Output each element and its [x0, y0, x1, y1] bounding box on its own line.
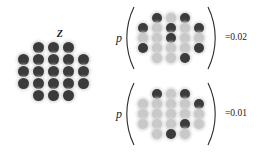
figure-canvas: Z p =0.02 p: [0, 0, 261, 152]
z-lattice-node-dark: [63, 90, 74, 101]
matrix-top-row: [150, 13, 192, 23]
matrix-bottom-node-light: [152, 119, 162, 129]
z-lattice-row: [31, 42, 76, 53]
matrix-top-row: [136, 43, 206, 53]
z-lattice-node-dark: [48, 66, 59, 77]
z-lattice-node-dark: [33, 66, 44, 77]
matrix-bottom-row: [150, 129, 192, 139]
z-lattice-node-dark: [63, 54, 74, 65]
probability-expression-bottom: p =0.01: [116, 78, 247, 150]
z-lattice-node-dark: [33, 54, 44, 65]
matrix-top-node-dark: [166, 23, 176, 33]
matrix-bottom-node-light: [166, 119, 176, 129]
z-lattice-node-dark: [33, 42, 44, 53]
z-lattice-node-dark: [18, 66, 29, 77]
matrix-top-node-light: [180, 23, 190, 33]
z-lattice-node-dark: [63, 42, 74, 53]
z-lattice-row: [16, 54, 91, 65]
matrix-top-node-light: [166, 13, 176, 23]
z-lattice-node-dark: [18, 54, 29, 65]
matrix-bottom-node-dark: [166, 129, 176, 139]
matrix-top-node-dark: [194, 43, 204, 53]
matrix-bottom-node-light: [180, 109, 190, 119]
z-lattice-node-dark: [18, 78, 29, 89]
z-lattice: [16, 42, 91, 102]
matrix-top: [136, 13, 206, 63]
z-lattice-row: [16, 66, 91, 77]
matrix-top-node-dark: [180, 13, 190, 23]
matrix-bottom-node-light: [194, 119, 204, 129]
matrix-bottom-row: [136, 99, 206, 109]
z-lattice-node-dark: [33, 78, 44, 89]
matrix-top-node-dark: [166, 33, 176, 43]
probability-value-bottom: =0.01: [225, 109, 247, 119]
matrix-bottom-node-light: [138, 109, 148, 119]
p-symbol-top: p: [116, 32, 122, 44]
close-paren-bottom: [207, 82, 216, 146]
z-lattice-node-dark: [78, 66, 89, 77]
matrix-bottom-node-dark: [180, 89, 190, 99]
matrix-bottom-row: [136, 119, 206, 129]
matrix-bottom-node-light: [152, 109, 162, 119]
matrix-top-node-dark: [180, 53, 190, 63]
probability-expression-top: p =0.02: [116, 2, 247, 74]
z-lattice-node-dark: [78, 78, 89, 89]
z-lattice-node-dark: [78, 54, 89, 65]
matrix-top-node-light: [166, 53, 176, 63]
z-lattice-row: [31, 90, 76, 101]
matrix-bottom-node-light: [166, 99, 176, 109]
matrix-top-row: [136, 33, 206, 43]
z-panel: Z: [12, 28, 108, 120]
matrix-top-row: [136, 23, 206, 33]
matrix-bottom-node-light: [152, 129, 162, 139]
matrix-bottom-lattice: [136, 89, 206, 139]
matrix-bottom-node-light: [138, 99, 148, 109]
matrix-bottom-node-dark: [180, 119, 190, 129]
p-symbol-bottom: p: [116, 108, 122, 120]
matrix-bottom-node-dark: [194, 99, 204, 109]
matrix-top-node-light: [152, 53, 162, 63]
matrix-top-node-light: [166, 43, 176, 53]
matrix-top-node-dark: [138, 43, 148, 53]
z-lattice-node-dark: [48, 78, 59, 89]
matrix-bottom-node-light: [152, 99, 162, 109]
matrix-bottom-node-dark: [152, 89, 162, 99]
z-lattice-node-dark: [63, 66, 74, 77]
matrix-bottom-row: [150, 89, 192, 99]
matrix-bottom: [136, 89, 206, 139]
matrix-top-node-light: [152, 23, 162, 33]
z-lattice-node-dark: [48, 90, 59, 101]
matrix-top-node-light: [180, 33, 190, 43]
matrix-bottom-node-light: [180, 99, 190, 109]
matrix-top-node-light: [138, 33, 148, 43]
close-paren-top: [207, 6, 216, 70]
z-lattice-row: [16, 78, 91, 89]
probability-value-top: =0.02: [225, 33, 247, 43]
matrix-top-node-dark: [138, 23, 148, 33]
matrix-top-node-light: [194, 33, 204, 43]
matrix-top-node-light: [180, 43, 190, 53]
matrix-top-node-dark: [194, 23, 204, 33]
matrix-bottom-node-light: [166, 89, 176, 99]
z-lattice-node-dark: [63, 78, 74, 89]
open-paren-bottom: [126, 82, 135, 146]
matrix-bottom-node-light: [166, 109, 176, 119]
matrix-top-node-light: [152, 43, 162, 53]
z-lattice-node-dark: [33, 90, 44, 101]
z-label: Z: [12, 28, 108, 39]
matrix-bottom-node-light: [194, 109, 204, 119]
matrix-bottom-node-light: [180, 129, 190, 139]
open-paren-top: [126, 6, 135, 70]
matrix-top-node-light: [152, 33, 162, 43]
matrix-top-lattice: [136, 13, 206, 63]
z-lattice-node-dark: [48, 54, 59, 65]
matrix-top-node-dark: [152, 13, 162, 23]
z-lattice-node-dark: [48, 42, 59, 53]
matrix-bottom-node-light: [138, 119, 148, 129]
matrix-top-row: [150, 53, 192, 63]
matrix-bottom-row: [136, 109, 206, 119]
